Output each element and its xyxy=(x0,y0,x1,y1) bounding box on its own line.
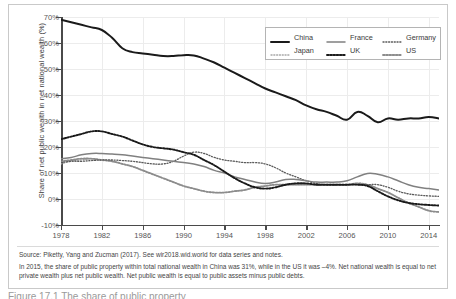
x-tick-mark xyxy=(429,225,430,230)
legend-item-china: China xyxy=(270,33,326,43)
x-tick-label: 2002 xyxy=(298,231,315,240)
figure-notes: Source: Piketty, Yang and Zucman (2017).… xyxy=(19,250,439,280)
legend-key-japan-icon xyxy=(270,46,290,56)
x-tick-label: 2006 xyxy=(339,231,356,240)
y-tick-mark xyxy=(56,69,62,70)
legend-key-us-icon xyxy=(382,46,402,56)
x-tick-mark xyxy=(265,225,266,230)
legend-label-china: China xyxy=(294,33,313,42)
legend-item-germany: Germany xyxy=(382,33,438,43)
source-note: Source: Piketty, Yang and Zucman (2017).… xyxy=(19,250,439,259)
x-tick-mark xyxy=(143,225,144,230)
x-tick-label: 1998 xyxy=(257,231,274,240)
chart-legend: China France Germany Japan UK xyxy=(265,27,441,60)
x-tick-mark xyxy=(184,225,185,230)
legend-item-japan: Japan xyxy=(270,46,326,56)
figure-panel: Share of net public wealth in net nation… xyxy=(8,4,448,289)
x-axis-spine xyxy=(61,225,440,226)
x-tick-label: 1982 xyxy=(93,231,110,240)
legend-row: Japan UK US xyxy=(270,44,438,57)
x-tick-label: 1978 xyxy=(53,231,70,240)
legend-key-germany-icon xyxy=(382,33,402,43)
legend-key-france-icon xyxy=(326,33,346,43)
x-tick-label: 2014 xyxy=(420,231,437,240)
x-tick-label: 1994 xyxy=(216,231,233,240)
y-tick-mark xyxy=(56,95,62,96)
legend-item-france: France xyxy=(326,33,382,43)
y-tick-mark xyxy=(56,121,62,122)
y-tick-mark xyxy=(56,199,62,200)
x-tick-label: 1986 xyxy=(134,231,151,240)
x-tick-mark xyxy=(61,225,62,230)
figure-caption: Figure 17.1 The share of public property xyxy=(8,291,448,299)
legend-label-uk: UK xyxy=(350,46,360,55)
legend-item-us: US xyxy=(382,46,438,56)
legend-label-germany: Germany xyxy=(406,33,436,42)
legend-label-us: US xyxy=(406,46,416,55)
x-tick-mark xyxy=(306,225,307,230)
legend-key-uk-icon xyxy=(326,46,346,56)
y-tick-mark xyxy=(56,147,62,148)
legend-row: China France Germany xyxy=(270,31,438,44)
x-tick-label: 2010 xyxy=(379,231,396,240)
x-axis-tick-labels: 1978198219861990199419982002200620102014 xyxy=(9,231,449,245)
legend-key-china-icon xyxy=(270,33,290,43)
y-tick-mark xyxy=(56,17,62,18)
y-tick-mark xyxy=(56,43,62,44)
notes-separator xyxy=(17,246,439,247)
x-tick-mark xyxy=(224,225,225,230)
series-line-france xyxy=(61,153,439,190)
detail-note: In 2015, the share of public property wi… xyxy=(19,262,439,280)
x-tick-mark xyxy=(102,225,103,230)
legend-label-france: France xyxy=(350,33,373,42)
legend-item-uk: UK xyxy=(326,46,382,56)
x-tick-mark xyxy=(347,225,348,230)
y-tick-mark xyxy=(56,173,62,174)
x-tick-label: 1990 xyxy=(175,231,192,240)
legend-label-japan: Japan xyxy=(294,46,314,55)
x-tick-mark xyxy=(388,225,389,230)
chart-plot-area: Share of net public wealth in net nation… xyxy=(9,5,449,237)
series-line-uk xyxy=(61,131,439,206)
